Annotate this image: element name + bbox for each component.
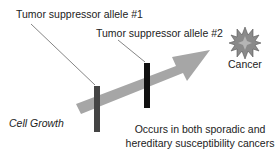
cancer-star-icon (229, 27, 261, 59)
tumor-suppressor-diagram: Tumor suppressor allele #1 Tumor suppres… (0, 0, 275, 154)
allele2-leader-line (118, 40, 145, 62)
allele2-bar (144, 63, 150, 108)
note-line-1: Occurs in both sporadic and (120, 122, 275, 136)
cell-growth-label: Cell Growth (9, 117, 64, 129)
allele1-label: Tumor suppressor allele #1 (16, 8, 143, 20)
note-text: Occurs in both sporadic and hereditary s… (120, 122, 275, 150)
allele1-leader-line (31, 24, 95, 85)
allele1-bar (94, 86, 100, 132)
allele2-label: Tumor suppressor allele #2 (96, 27, 223, 39)
cancer-label: Cancer (228, 58, 262, 70)
note-line-2: hereditary susceptibility cancers (120, 136, 275, 150)
